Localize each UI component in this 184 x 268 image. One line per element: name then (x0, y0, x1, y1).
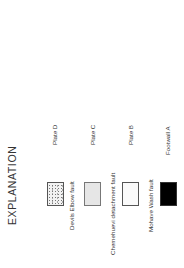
plate-b-swatch (122, 182, 139, 206)
legend-title: EXPLANATION (7, 146, 17, 225)
plate-c-label: Plate C (89, 125, 97, 145)
map-explanation-legend: EXPLANATION Plate D Devils Elbow fault P… (0, 0, 184, 268)
chemehuevi-detachment-fault-label: Chemehuevi detachment fault (109, 173, 117, 255)
footwall-a-label: Footwall A (164, 126, 172, 155)
mohave-wash-fault-label: Mohave Wash fault (147, 179, 155, 232)
plate-c-swatch (84, 182, 101, 206)
plate-d-swatch (47, 182, 64, 206)
footwall-a-swatch (160, 182, 177, 206)
plate-d-label: Plate D (51, 125, 59, 145)
devils-elbow-fault-label: Devils Elbow fault (68, 181, 76, 230)
plate-b-label: Plate B (127, 125, 135, 145)
